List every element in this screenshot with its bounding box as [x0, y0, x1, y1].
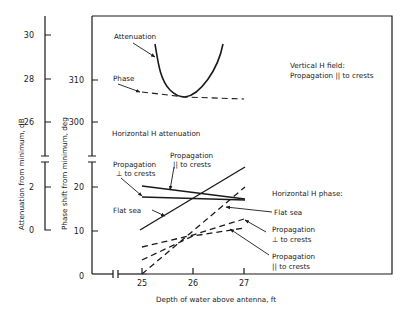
tick-label: 28 — [24, 75, 34, 84]
series-h-phase-perp — [142, 219, 244, 247]
tick-label: 30 — [24, 31, 34, 40]
x-axis-break-icon — [113, 270, 118, 278]
series-vertical-attenuation — [155, 44, 223, 97]
label-vertical-h-field: Vertical H field: — [290, 61, 345, 70]
tick-label: 20 — [74, 183, 84, 192]
label-phase-prop-par-2: || to crests — [272, 262, 310, 271]
phase-axis-break-icon — [88, 156, 96, 162]
attenuation-axis-break-icon — [41, 156, 49, 162]
tick-label: 10 — [74, 227, 84, 236]
chart: 30 28 26 2 0 310 300 20 10 0 25 26 27 De… — [0, 0, 411, 318]
attenuation-axis — [45, 16, 51, 230]
label-prop-parallel: Propagation — [170, 151, 213, 160]
tick-label: 27 — [239, 279, 249, 288]
label-flat-sea: Flat sea — [113, 206, 141, 215]
y-axis-label-phase: Phase shift from minimum, deg — [60, 117, 69, 230]
x-axis-label: Depth of water above antenna, ft — [156, 295, 276, 304]
tick-label: 300 — [69, 118, 84, 127]
label-phase-prop-perp-2: ⊥ to crests — [272, 235, 312, 244]
series-vertical-phase — [142, 92, 244, 99]
tick-label: 0 — [29, 226, 34, 235]
plot-frame — [92, 16, 392, 274]
y-axis-label-attenuation: Attenuation from minimum, dB — [17, 118, 26, 230]
tick-label: 310 — [69, 76, 84, 85]
label-flat-sea-phase: Flat sea — [274, 208, 302, 217]
tick-label: 25 — [137, 279, 147, 288]
label-vertical-propagation: Propagation || to crests — [290, 71, 374, 80]
label-phase-prop-perp: Propagation — [272, 225, 315, 234]
label-attenuation: Attenuation — [114, 32, 156, 41]
label-phase: Phase — [113, 74, 135, 83]
label-horizontal-attenuation: Horizontal H attenuation — [112, 129, 200, 138]
label-prop-perp: Propagation — [113, 160, 156, 169]
label-prop-parallel-2: || to crests — [173, 160, 211, 169]
label-prop-perp-2: ⊥ to crests — [116, 169, 156, 178]
label-phase-prop-par: Propagation — [272, 252, 315, 261]
tick-label: 2 — [29, 183, 34, 192]
tick-label: 26 — [188, 279, 198, 288]
label-horizontal-phase: Horizontal H phase: — [272, 189, 343, 198]
tick-label: 0 — [79, 272, 84, 281]
